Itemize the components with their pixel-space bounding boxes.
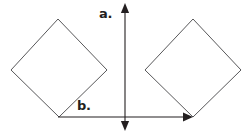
figure-canvas bbox=[0, 0, 252, 134]
left-square-shape bbox=[11, 19, 107, 117]
vertical-axis-down-arrowhead-icon bbox=[121, 121, 129, 131]
horizontal-axis-label: b. bbox=[77, 99, 91, 112]
geometry-figure: a. b. bbox=[0, 0, 252, 134]
vertical-axis-up-arrowhead-icon bbox=[121, 3, 129, 13]
right-square-shape bbox=[145, 19, 241, 117]
vertical-axis-label: a. bbox=[99, 7, 112, 20]
